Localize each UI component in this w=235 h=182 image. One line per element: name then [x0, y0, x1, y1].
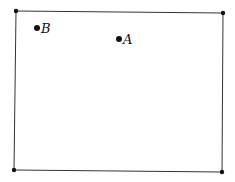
point-b-label: B — [40, 21, 51, 36]
diagram-canvas: B A — [0, 0, 235, 182]
corner-dot-bottom-right — [220, 170, 224, 174]
corner-dot-top-right — [221, 11, 225, 15]
point-a-label: A — [122, 32, 132, 47]
corner-dot-bottom-left — [12, 168, 16, 172]
point-a-dot — [116, 36, 122, 42]
corner-dot-top-left — [14, 9, 18, 13]
point-b-dot — [34, 25, 40, 31]
